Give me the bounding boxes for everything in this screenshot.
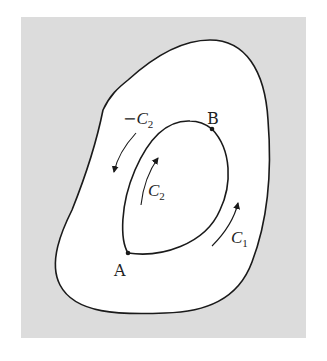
point-a-marker — [126, 251, 131, 256]
closed-curves-diagram: −C2 B C2 C1 A — [0, 0, 327, 361]
label-point-b: B — [207, 109, 219, 128]
label-point-a: A — [113, 261, 126, 280]
